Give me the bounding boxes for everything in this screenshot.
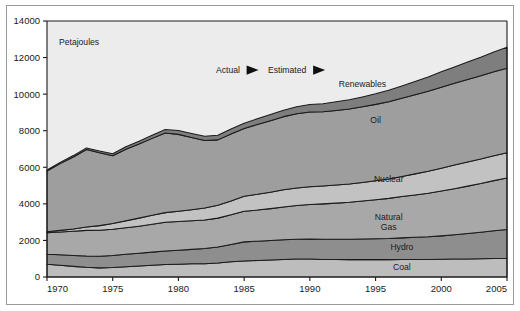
y-tick-label: 8000 xyxy=(19,125,40,136)
annotation-label-actual: Actual xyxy=(216,65,240,75)
y-tick-label: 12000 xyxy=(14,52,40,63)
x-tick-label: 2000 xyxy=(431,283,452,294)
chart-figure: CoalHydroNaturalGasNuclearOilRenewables0… xyxy=(0,0,520,311)
y-tick-label: 2000 xyxy=(19,235,40,246)
y-axis-unit-label: Petajoules xyxy=(59,37,99,47)
annotation-label-estimated: Estimated xyxy=(268,65,306,75)
series-label-coal: Coal xyxy=(393,262,411,272)
y-tick-label: 0 xyxy=(35,271,40,282)
y-tick-label: 10000 xyxy=(14,89,40,100)
x-tick-label: 1970 xyxy=(47,283,68,294)
series-label-oil: Oil xyxy=(370,115,381,125)
x-tick-label: 1975 xyxy=(102,283,123,294)
y-tick-label: 6000 xyxy=(19,162,40,173)
series-label-nuclear: Nuclear xyxy=(374,174,404,184)
x-tick-label: 1985 xyxy=(234,283,255,294)
x-tick-label: 1980 xyxy=(168,283,189,294)
stacked-area-chart: CoalHydroNaturalGasNuclearOilRenewables0… xyxy=(0,0,520,311)
series-label-renewables: Renewables xyxy=(339,79,386,89)
y-tick-label: 14000 xyxy=(14,15,40,26)
x-tick-label: 2005 xyxy=(486,283,507,294)
series-label-hydro: Hydro xyxy=(390,242,413,252)
x-tick-label: 1995 xyxy=(365,283,386,294)
y-tick-label: 4000 xyxy=(19,198,40,209)
x-tick-label: 1990 xyxy=(299,283,320,294)
